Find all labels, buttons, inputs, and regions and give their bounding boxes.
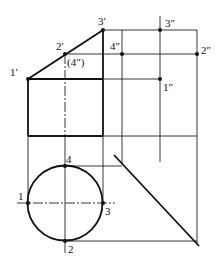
point-1-top bbox=[26, 201, 30, 205]
label-4-hidden: (4″) bbox=[67, 56, 85, 69]
label-1-top: 1 bbox=[18, 190, 24, 202]
projection-diagram: 1′ 2′ 3′ (4″) 3″ 4″ 2″ 1″ 1 2 3 4 bbox=[0, 0, 224, 274]
point-2-side bbox=[195, 52, 199, 56]
label-1-front: 1′ bbox=[10, 66, 18, 78]
top-view bbox=[17, 136, 197, 253]
label-2-front: 2′ bbox=[56, 40, 64, 52]
front-view bbox=[26, 28, 105, 136]
point-2-top bbox=[63, 239, 67, 243]
label-3-side: 3″ bbox=[165, 17, 175, 29]
label-3-top: 3 bbox=[105, 205, 111, 217]
label-1-side: 1″ bbox=[163, 81, 173, 93]
point-3-side bbox=[158, 28, 162, 32]
label-3-front: 3′ bbox=[98, 15, 106, 27]
point-1-front bbox=[26, 77, 30, 81]
label-4-side: 4″ bbox=[110, 40, 120, 52]
miter-line bbox=[114, 155, 199, 246]
labels: 1′ 2′ 3′ (4″) 3″ 4″ 2″ 1″ 1 2 3 4 bbox=[10, 15, 211, 255]
label-2-side: 2″ bbox=[201, 44, 211, 56]
label-4-top: 4 bbox=[66, 153, 72, 165]
point-4-side bbox=[120, 52, 124, 56]
label-2-top: 2 bbox=[68, 243, 74, 255]
point-1-side bbox=[158, 77, 162, 81]
